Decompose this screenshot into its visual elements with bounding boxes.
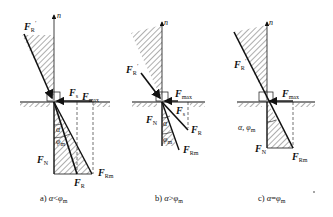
- caption-b: b) α>φm: [155, 194, 183, 204]
- label-fs-b: Fs: [176, 106, 185, 117]
- label-fr-prime-c: FR′: [234, 58, 246, 71]
- ground-hatch-right: [295, 103, 315, 107]
- label-fr-b: FR: [191, 125, 202, 136]
- label-fn-b: FN: [146, 115, 157, 126]
- caption-c: c) α=φm: [258, 194, 285, 204]
- label-fmax-a: Fmax: [82, 92, 99, 103]
- label-phim-b: φm: [163, 136, 172, 145]
- label-fmax-c: Fmax: [282, 89, 299, 100]
- ground-hatch-left: [237, 103, 262, 107]
- label-fs-a: Fs: [69, 88, 78, 99]
- ground-hatch-right: [93, 103, 110, 107]
- ground-hatch-right: [190, 103, 205, 107]
- label-frm-b: FRm: [183, 145, 198, 156]
- label-fr-a: FR: [74, 178, 85, 189]
- caption-a: a) α<φm: [40, 194, 67, 204]
- label-n-axis-c: n: [269, 19, 273, 27]
- label-alpha-b: α: [163, 120, 167, 128]
- stray-dot: [313, 191, 315, 193]
- diagram-graphics: [0, 0, 333, 217]
- label-n-axis-a: n: [57, 12, 61, 20]
- ground-hatch-left: [20, 103, 50, 107]
- label-fmax-b: Fmax: [175, 89, 192, 100]
- label-fn-a: FN: [37, 155, 48, 166]
- label-phim-a: φm: [56, 138, 65, 147]
- panel-c: [234, 22, 315, 193]
- label-frm-a: FRm: [98, 168, 113, 179]
- label-fr-prime-a: FR′: [24, 20, 36, 33]
- label-fn-c: FN: [255, 144, 266, 155]
- label-alpha-a: α: [56, 126, 60, 134]
- label-fr-prime-b: FR′: [126, 63, 138, 76]
- label-alpha-phim-c: α, φm: [238, 124, 255, 133]
- ground-hatch-left: [132, 103, 157, 107]
- label-frm-c: FRm: [292, 152, 307, 163]
- friction-diagram: n FR′ Fs Fmax α φm FN FR FRm n FR′ Fmax …: [0, 0, 333, 217]
- label-n-axis-b: n: [164, 19, 168, 27]
